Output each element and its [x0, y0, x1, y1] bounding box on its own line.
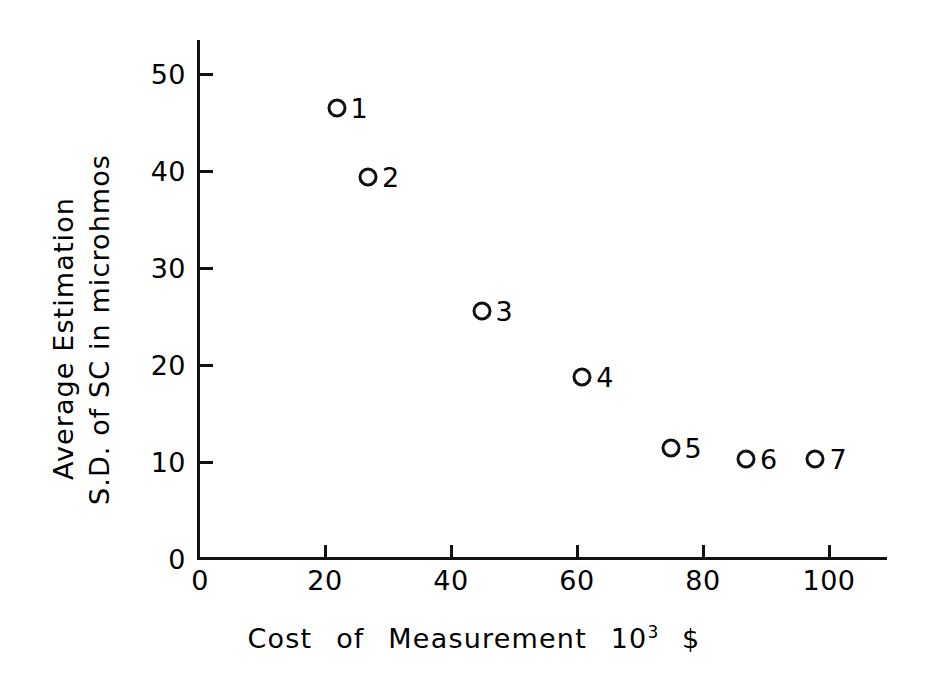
- y-axis-tick-label: 40: [151, 156, 186, 187]
- x-axis-tick-label: 20: [307, 565, 342, 596]
- y-axis-tick: [200, 73, 213, 76]
- y-axis-tick-label: 0: [168, 544, 186, 575]
- y-axis-line: [197, 40, 200, 560]
- y-axis-tick: [200, 364, 213, 367]
- x-axis-title-word: Cost: [248, 623, 313, 654]
- y-axis-title: Average Estimation S.D. of SC in microhm…: [18, 50, 88, 510]
- x-axis-title-unit: 103: [611, 623, 659, 654]
- x-axis-title-word: of: [336, 623, 364, 654]
- x-axis-unit-base: 10: [611, 623, 648, 654]
- data-point-label: 2: [382, 161, 399, 192]
- x-axis-tick: [576, 545, 579, 558]
- x-axis-title: Cost of Measurement 103 $: [0, 622, 948, 654]
- data-point-marker: [806, 450, 825, 469]
- data-point-label: 4: [596, 361, 613, 392]
- y-axis-title-line-1: Average Estimation: [48, 197, 79, 480]
- x-axis-tick-label: 0: [191, 565, 209, 596]
- data-point-label: 7: [829, 444, 846, 475]
- data-point-label: 3: [496, 295, 513, 326]
- data-point-marker: [661, 439, 680, 458]
- y-axis-title-line-2: S.D. of SC in microhmos: [84, 154, 115, 505]
- scatter-chart-figure: 50 40 30 20 10 0 0 20 40 60 80 100 12345…: [0, 0, 948, 689]
- x-axis-unit-exponent: 3: [647, 622, 658, 642]
- x-axis-tick: [450, 545, 453, 558]
- data-point-marker: [737, 450, 756, 469]
- x-axis-tick: [828, 545, 831, 558]
- x-axis-line: [197, 557, 887, 560]
- x-axis-tick-label: 40: [433, 565, 468, 596]
- x-axis-tick: [324, 545, 327, 558]
- data-point-marker: [359, 167, 378, 186]
- y-axis-tick-label: 10: [151, 447, 186, 478]
- data-point-label: 6: [760, 444, 777, 475]
- y-axis-tick-label: 50: [151, 59, 186, 90]
- x-axis-tick-label: 80: [685, 565, 720, 596]
- data-point-marker: [472, 301, 491, 320]
- y-axis-tick: [200, 461, 213, 464]
- x-axis-tick-label: 100: [802, 565, 855, 596]
- data-point-marker: [573, 367, 592, 386]
- y-axis-tick: [200, 267, 213, 270]
- data-point-marker: [327, 98, 346, 117]
- x-axis-title-currency: $: [682, 623, 700, 654]
- y-axis-tick-label: 20: [151, 350, 186, 381]
- data-point-label: 5: [685, 433, 702, 464]
- x-axis-tick-label: 60: [559, 565, 594, 596]
- y-axis-tick: [200, 170, 213, 173]
- y-axis-tick-label: 30: [151, 253, 186, 284]
- data-point-label: 1: [351, 92, 368, 123]
- x-axis-title-word: Measurement: [388, 623, 587, 654]
- x-axis-tick: [702, 545, 705, 558]
